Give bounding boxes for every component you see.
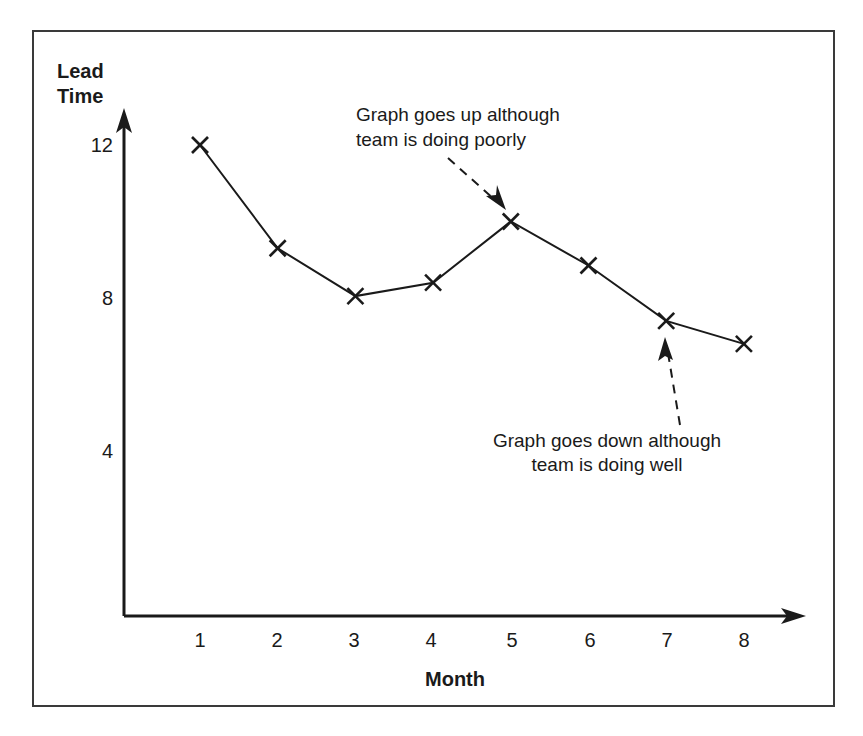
data-point-marker-month-2 [270, 240, 286, 256]
x-tick-label-6: 6 [584, 629, 595, 651]
line-chart: Lead Time 12 8 4 1 2 3 4 5 6 7 8 Month G… [0, 0, 863, 736]
x-tick-label-7: 7 [661, 629, 672, 651]
y-tick-label-12: 12 [91, 134, 113, 156]
x-tick-label-2: 2 [271, 629, 282, 651]
data-point-marker-month-7 [658, 313, 674, 329]
y-axis-title-line1: Lead [57, 60, 104, 82]
annotation-down-line2: team is doing well [531, 454, 682, 475]
annotation-up-line2: team is doing poorly [356, 129, 527, 150]
data-point-marker-month-6 [581, 257, 597, 273]
data-point-marker-month-1 [192, 137, 208, 153]
annotation-up-arrowhead [486, 185, 506, 210]
x-axis-title: Month [425, 668, 485, 690]
figure-container: Lead Time 12 8 4 1 2 3 4 5 6 7 8 Month G… [0, 0, 863, 736]
annotation-up-leader-line [448, 158, 495, 200]
annotation-up-line1: Graph goes up although [356, 104, 560, 125]
annotation-down-leader-line [668, 353, 680, 425]
data-point-marker-month-5 [503, 214, 519, 230]
x-tick-label-4: 4 [425, 629, 436, 651]
y-tick-label-4: 4 [102, 440, 113, 462]
annotation-down-arrowhead [658, 337, 673, 361]
x-tick-label-5: 5 [506, 629, 517, 651]
y-tick-label-8: 8 [102, 287, 113, 309]
annotation-down-line1: Graph goes down although [493, 430, 721, 451]
y-axis-title-line2: Time [57, 85, 103, 107]
x-tick-label-1: 1 [194, 629, 205, 651]
x-tick-label-3: 3 [348, 629, 359, 651]
x-tick-label-8: 8 [738, 629, 749, 651]
data-point-marker-month-8 [736, 336, 752, 352]
